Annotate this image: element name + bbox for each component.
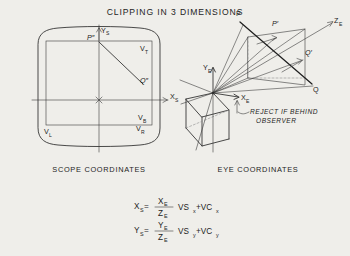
scope-viewport-left-label-sub: L — [49, 132, 52, 138]
eq2-plus-term-sub: y — [216, 232, 219, 238]
equation-block: X S = X E Z E VS x +VC x Y S = Y E Z E V… — [134, 197, 219, 243]
eq2-plus-term: +VC — [196, 227, 212, 236]
scope-clipped-segment — [99, 42, 143, 84]
eye-point-q-label: Q — [313, 85, 319, 94]
reject-annotation-line2: OBSERVER — [256, 117, 297, 124]
eq1-plus-term: +VC — [196, 203, 212, 212]
scope-viewport-right-label-sub: R — [141, 129, 145, 135]
eye-z-axis-label-sub: E — [339, 21, 343, 27]
eq1-plus-term-sub: x — [216, 208, 219, 214]
equation-xs: X S = X E Z E VS x +VC x — [134, 197, 219, 219]
eq2-denominator-sub: E — [164, 237, 168, 243]
observer-box-bottom — [186, 128, 229, 146]
eq1-denominator-sub: E — [164, 213, 168, 219]
clipping-figure: CLIPPING IN 3 DIMENSIONS Y S X S P″ Q″ V… — [0, 0, 350, 256]
observer-box-top — [186, 93, 229, 117]
reject-annotation-line1: REJECT IF BEHIND — [250, 108, 318, 115]
eq2-numerator-sub: E — [164, 225, 168, 231]
eq2-tail: VS — [178, 227, 189, 236]
eye-x-axis-label-sub: E — [246, 98, 250, 104]
eq2-denominator: Z — [158, 233, 163, 242]
figure-title: CLIPPING IN 3 DIMENSIONS — [107, 7, 244, 17]
eq1-numerator-sub: E — [164, 201, 168, 207]
eye-point-p-prime-label: P′ — [272, 19, 279, 28]
eq1-denominator: Z — [158, 209, 163, 218]
scope-viewport-top-label-sub: T — [145, 49, 148, 55]
equation-ys: Y S = Y E Z E VS y +VC y — [134, 221, 219, 243]
scope-y-axis-label-sub: S — [106, 30, 110, 36]
eq1-equals: = — [144, 202, 149, 211]
eye-ray-to-q — [213, 86, 313, 93]
scope-panel-caption: SCOPE COORDINATES — [52, 165, 145, 174]
scope-point-p-double-prime-label: P″ — [87, 33, 95, 42]
eye-panel-caption: EYE COORDINATES — [218, 165, 299, 174]
eye-segment-pq — [240, 22, 312, 84]
eye-ray-to-p-prime — [213, 38, 275, 93]
scope-coordinates-panel: Y S X S P″ Q″ V T V B V L V R SCOPE COOR… — [32, 25, 179, 174]
scope-viewport-bottom-label-sub: B — [143, 118, 147, 124]
scope-point-q-double-prime-label: Q″ — [140, 76, 149, 85]
eye-ray-to-q-prime — [213, 60, 303, 93]
reject-annotation-leader — [238, 112, 249, 114]
eye-point-q-prime-label: Q′ — [305, 48, 313, 57]
eye-rejected-ray-4 — [181, 93, 213, 104]
eq1-tail: VS — [178, 203, 189, 212]
eq2-equals: = — [144, 226, 149, 235]
eye-rejected-ray-1 — [196, 93, 213, 150]
eye-coordinates-panel: Z E Y E — [180, 9, 343, 174]
reject-annotation: REJECT IF BEHIND OBSERVER — [235, 100, 318, 124]
eye-point-p-label: P — [236, 9, 241, 18]
eye-ray-to-window-topleft — [213, 37, 248, 93]
scope-x-axis-label-sub: S — [175, 97, 179, 103]
eye-observer-box — [186, 93, 229, 146]
observer-box-diagonal — [186, 110, 229, 128]
eye-rejected-ray-3 — [180, 80, 213, 93]
